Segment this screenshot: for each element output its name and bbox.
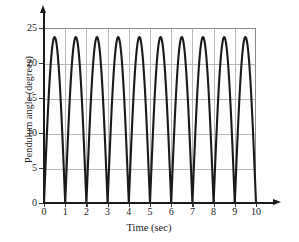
y-tick-mark <box>39 28 43 29</box>
x-tick-label: 9 <box>224 206 246 217</box>
gridline-vertical <box>192 29 193 203</box>
y-tick-label: 20 <box>9 58 37 68</box>
gridline-vertical <box>171 29 172 203</box>
y-tick-label: 25 <box>9 23 37 33</box>
gridline-vertical <box>129 29 130 203</box>
x-axis-title: Time (sec) <box>44 222 254 233</box>
x-tick-label: 6 <box>160 206 182 217</box>
gridline-vertical <box>214 29 215 203</box>
y-tick-label: 10 <box>9 128 37 138</box>
gridline-vertical <box>65 29 66 203</box>
y-tick-mark <box>39 168 43 169</box>
x-tick-label: 1 <box>54 206 76 217</box>
x-tick-label: 10 <box>245 206 267 217</box>
gridline-vertical <box>108 29 109 203</box>
x-axis-arrow-icon <box>273 199 281 205</box>
gridline-horizontal <box>44 134 255 135</box>
gridline-horizontal <box>44 64 255 65</box>
gridline-horizontal <box>44 169 255 170</box>
x-tick-label: 4 <box>118 206 140 217</box>
x-tick-label: 3 <box>97 206 119 217</box>
y-axis-line <box>43 11 45 203</box>
x-tick-label: 7 <box>181 206 203 217</box>
x-tick-label: 0 <box>33 206 55 217</box>
x-tick-label: 8 <box>203 206 225 217</box>
gridline-horizontal <box>44 99 255 100</box>
y-tick-mark <box>39 133 43 134</box>
y-tick-mark <box>39 203 43 204</box>
x-axis-line <box>43 202 275 204</box>
gridline-vertical <box>235 29 236 203</box>
x-tick-label: 5 <box>139 206 161 217</box>
x-tick-label: 2 <box>75 206 97 217</box>
y-tick-label: 5 <box>9 163 37 173</box>
gridline-vertical <box>86 29 87 203</box>
gridline-vertical <box>150 29 151 203</box>
plot-area <box>44 28 256 203</box>
y-tick-label: 15 <box>9 93 37 103</box>
y-tick-mark <box>39 98 43 99</box>
y-axis-arrow-icon <box>40 5 46 13</box>
y-tick-mark <box>39 63 43 64</box>
pendulum-angle-chart: Pendulum angle (degrees) Time (sec) 0510… <box>0 0 299 242</box>
